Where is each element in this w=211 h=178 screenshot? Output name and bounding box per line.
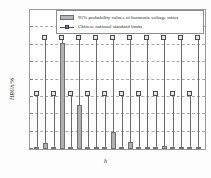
x-tick-mark [122, 146, 123, 149]
x-tick-mark [190, 146, 191, 149]
x-axis-title: h [104, 158, 107, 164]
x-tick-mark [139, 146, 140, 149]
x-tick-mark [54, 146, 55, 149]
legend-item-label: 95% probability values of harmonic volta… [78, 15, 178, 20]
y-axis-title: HRUh/% [9, 78, 15, 100]
x-tick-mark [156, 146, 157, 149]
x-tick-mark [88, 146, 89, 149]
bar-swatch-icon [60, 15, 74, 20]
x-tick-mark [71, 146, 72, 149]
legend-item-label: Chinese national standard limits [78, 24, 142, 29]
x-tick-mark [37, 146, 38, 149]
x-tick-mark [173, 146, 174, 149]
x-tick-mark [105, 146, 106, 149]
harmonic-voltage-chart: HRUh/% 00.511.522.533.54 246810121416182… [0, 0, 211, 178]
legend: 95% probability values of harmonic volta… [56, 10, 204, 34]
stem-marker-icon [60, 24, 74, 29]
legend-item-probability-values: 95% probability values of harmonic volta… [60, 13, 200, 22]
legend-item-standard-limits: Chinese national standard limits [60, 22, 200, 31]
